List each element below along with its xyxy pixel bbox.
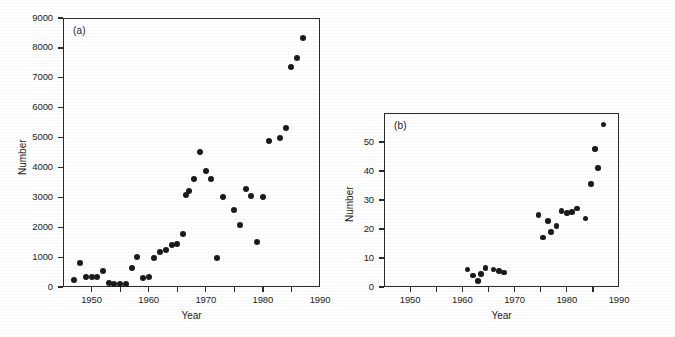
figure-container: (a) Year Number 010002000300040005000600… (0, 0, 675, 337)
panel-b-x-tick (592, 287, 593, 292)
panel-b-x-tick (514, 287, 515, 292)
panel-b: (b) Year Number 010203040501950196019701… (0, 0, 675, 337)
panel-b-y-tick (379, 141, 384, 142)
panel-b-x-tick (540, 287, 541, 292)
panel-b-label: (b) (394, 120, 407, 131)
panel-b-y-tick-label: 30 (364, 194, 374, 205)
panel-b-y-axis-title: Number (344, 186, 355, 222)
panel-b-x-tick-label: 1960 (442, 294, 482, 305)
data-point (592, 146, 598, 152)
data-point (483, 265, 489, 271)
panel-b-y-tick-label: 0 (369, 281, 374, 292)
data-point (554, 223, 560, 229)
panel-b-x-tick-label: 1980 (547, 294, 587, 305)
panel-b-x-tick (436, 287, 437, 292)
panel-b-x-tick (488, 287, 489, 292)
data-point (478, 271, 484, 277)
panel-b-x-tick-label: 1950 (390, 294, 430, 305)
panel-b-x-tick-label: 1970 (495, 294, 535, 305)
data-point (470, 273, 476, 279)
data-point (540, 235, 546, 241)
data-point (588, 181, 594, 187)
data-point (548, 229, 554, 235)
panel-b-y-tick (379, 286, 384, 287)
panel-b-x-tick (462, 287, 463, 292)
panel-b-y-tick-label: 10 (364, 252, 374, 263)
data-point (475, 278, 481, 284)
panel-b-y-tick-label: 50 (364, 136, 374, 147)
panel-b-y-tick (379, 228, 384, 229)
data-point (545, 218, 551, 224)
panel-b-x-tick (410, 287, 411, 292)
panel-b-x-axis-title: Year (462, 310, 542, 321)
panel-b-y-tick-label: 20 (364, 223, 374, 234)
panel-b-y-tick (379, 199, 384, 200)
panel-b-x-tick-label: 1990 (599, 294, 639, 305)
panel-b-y-tick (379, 170, 384, 171)
panel-b-y-tick (379, 257, 384, 258)
panel-b-plot-frame (384, 113, 619, 287)
data-point (595, 165, 601, 171)
panel-b-x-tick (566, 287, 567, 292)
panel-b-y-tick-label: 40 (364, 165, 374, 176)
